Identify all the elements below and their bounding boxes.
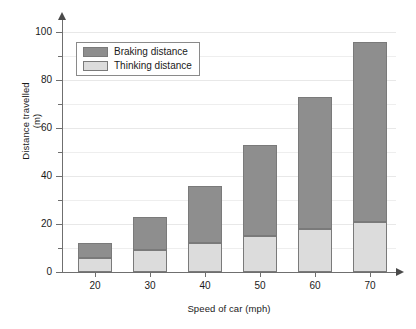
y-tick-20 xyxy=(56,224,62,225)
x-tick-50 xyxy=(260,272,261,277)
legend-label-braking: Braking distance xyxy=(114,47,188,57)
x-tick-label-40: 40 xyxy=(185,281,225,291)
x-tick-20 xyxy=(95,272,96,277)
gridline-80 xyxy=(62,80,396,81)
gridline-60 xyxy=(62,128,396,129)
y-tick-90 xyxy=(58,56,62,57)
x-tick-label-30: 30 xyxy=(130,281,170,291)
x-tick-60 xyxy=(315,272,316,277)
bar-segment-braking-30 xyxy=(133,217,167,251)
gridline-50 xyxy=(62,152,396,153)
y-tick-100 xyxy=(56,32,62,33)
bar-segment-thinking-70 xyxy=(353,222,387,272)
bar-segment-braking-20 xyxy=(78,243,112,257)
legend-label-thinking: Thinking distance xyxy=(114,61,192,71)
y-tick-30 xyxy=(58,200,62,201)
y-tick-label-80: 80 xyxy=(12,75,52,85)
y-tick-label-60: 60 xyxy=(12,123,52,133)
legend-swatch-braking-icon xyxy=(83,47,108,57)
stacked-bar-chart: Distance travelled (m) xyxy=(0,0,416,329)
bar-segment-thinking-60 xyxy=(298,229,332,272)
x-axis-line xyxy=(62,272,396,273)
y-tick-label-0: 0 xyxy=(12,267,52,277)
gridline-70 xyxy=(62,104,396,105)
bar-segment-braking-40 xyxy=(188,186,222,244)
x-axis-title: Speed of car (mph) xyxy=(62,303,396,314)
y-tick-50 xyxy=(58,152,62,153)
x-tick-label-50: 50 xyxy=(240,281,280,291)
gridline-20 xyxy=(62,224,396,225)
gridline-40 xyxy=(62,176,396,177)
bar-segment-thinking-40 xyxy=(188,243,222,272)
gridline-10 xyxy=(62,248,396,249)
bar-segment-thinking-20 xyxy=(78,258,112,272)
y-tick-label-40: 40 xyxy=(12,171,52,181)
bar-segment-braking-50 xyxy=(243,145,277,236)
x-tick-label-20: 20 xyxy=(75,281,115,291)
x-axis-arrow-icon xyxy=(396,268,404,276)
legend-item-braking: Braking distance xyxy=(83,47,192,57)
x-tick-label-70: 70 xyxy=(350,281,390,291)
bar-segment-thinking-50 xyxy=(243,236,277,272)
y-tick-70 xyxy=(58,104,62,105)
y-axis-arrow-icon xyxy=(58,12,66,20)
gridline-100 xyxy=(62,32,396,33)
y-tick-label-20: 20 xyxy=(12,219,52,229)
x-tick-40 xyxy=(205,272,206,277)
y-tick-40 xyxy=(56,176,62,177)
x-tick-30 xyxy=(150,272,151,277)
y-tick-0 xyxy=(56,272,62,273)
bar-segment-thinking-30 xyxy=(133,250,167,272)
gridline-30 xyxy=(62,200,396,201)
bar-segment-braking-70 xyxy=(353,42,387,222)
legend-item-thinking: Thinking distance xyxy=(83,61,192,71)
legend: Braking distance Thinking distance xyxy=(76,42,200,76)
y-axis-line xyxy=(62,18,63,272)
y-tick-60 xyxy=(56,128,62,129)
x-tick-label-60: 60 xyxy=(295,281,335,291)
y-tick-80 xyxy=(56,80,62,81)
x-tick-70 xyxy=(370,272,371,277)
y-tick-label-100: 100 xyxy=(12,27,52,37)
y-tick-10 xyxy=(58,248,62,249)
bar-segment-braking-60 xyxy=(298,97,332,229)
legend-swatch-thinking-icon xyxy=(83,61,108,71)
